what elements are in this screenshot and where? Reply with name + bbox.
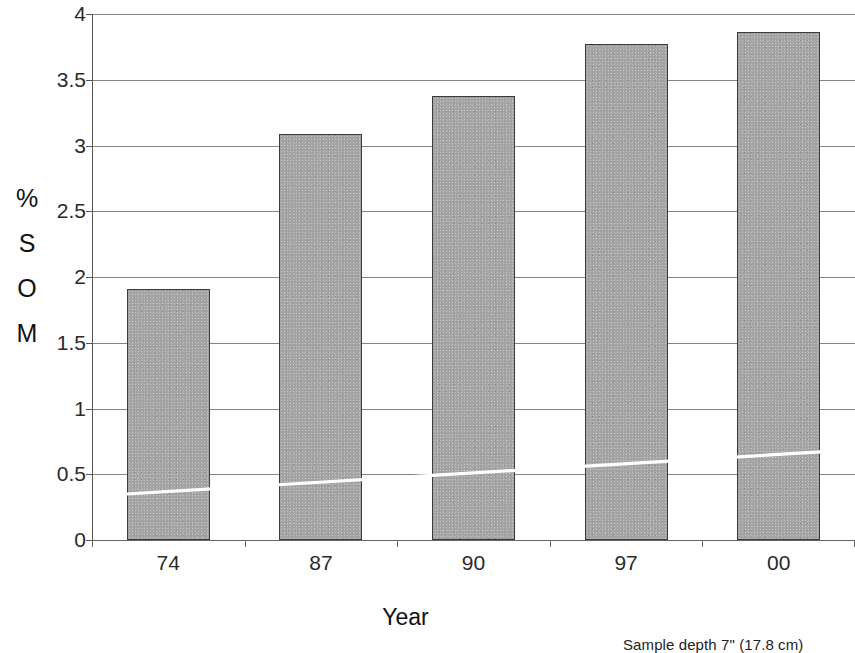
x-axis-tick-mark bbox=[92, 540, 93, 547]
sample-depth-footnote: Sample depth 7" (17.8 cm) bbox=[623, 636, 803, 653]
x-axis-title-text: Year bbox=[382, 604, 428, 631]
bar bbox=[127, 289, 210, 540]
y-axis-tick-mark bbox=[86, 14, 93, 15]
x-axis-tick-mark bbox=[397, 540, 398, 547]
x-axis-tick-mark bbox=[550, 540, 551, 547]
gridline bbox=[92, 14, 855, 15]
x-axis-tick-label: 74 bbox=[157, 551, 180, 575]
bar bbox=[279, 134, 362, 540]
y-axis-tick-label: 0.5 bbox=[22, 462, 86, 486]
bar bbox=[585, 44, 668, 540]
x-axis-tick-label: 97 bbox=[614, 551, 637, 575]
x-axis-tick-mark bbox=[245, 540, 246, 547]
y-axis-tick-mark bbox=[86, 409, 93, 410]
y-axis-tick-mark bbox=[86, 277, 93, 278]
y-axis-tick-label: 2.5 bbox=[22, 199, 86, 223]
plot-area bbox=[92, 14, 855, 540]
y-axis-tick-label: 3 bbox=[22, 134, 86, 158]
y-axis-tick-mark bbox=[86, 474, 93, 475]
x-axis-tick-label: 00 bbox=[767, 551, 790, 575]
y-axis-tick-mark bbox=[86, 80, 93, 81]
y-axis-tick-label: 3.5 bbox=[22, 68, 86, 92]
y-axis-tick-mark bbox=[86, 211, 93, 212]
y-axis-tick-mark bbox=[86, 146, 93, 147]
bar bbox=[737, 32, 820, 540]
y-axis-tick-label: 1.5 bbox=[22, 331, 86, 355]
gridline bbox=[92, 540, 855, 541]
y-axis-tick-mark bbox=[86, 343, 93, 344]
y-axis-tick-label: 0 bbox=[22, 528, 86, 552]
x-axis-tick-mark bbox=[702, 540, 703, 547]
y-axis-tick-label: 4 bbox=[22, 2, 86, 26]
bar bbox=[432, 96, 515, 540]
x-axis-tick-label: 90 bbox=[462, 551, 485, 575]
y-axis-tick-labels: 00.511.522.533.54 bbox=[12, 0, 86, 652]
x-axis-title: Year bbox=[0, 604, 855, 631]
y-axis-tick-label: 1 bbox=[22, 397, 86, 421]
y-axis-tick-label: 2 bbox=[22, 265, 86, 289]
x-axis-tick-label: 87 bbox=[309, 551, 332, 575]
